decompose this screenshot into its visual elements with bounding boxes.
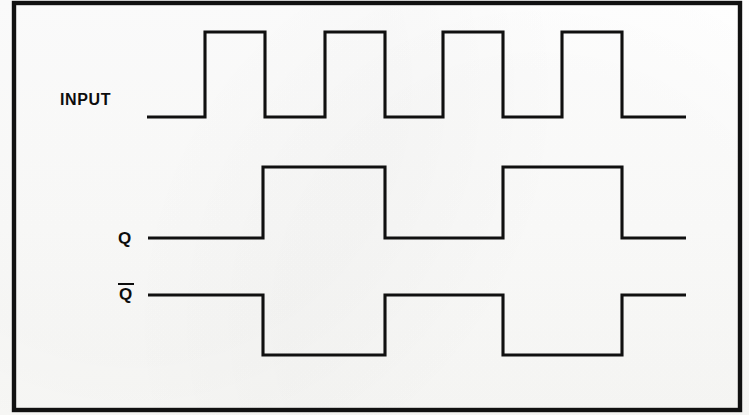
signal-label-input: INPUT: [60, 92, 111, 108]
signal-label-q: Q: [118, 230, 132, 247]
qbar-waveform: [148, 295, 686, 355]
qbar-overbar-text: Q: [119, 285, 133, 303]
signal-label-qbar: Q: [119, 285, 133, 303]
timing-diagram-canvas: [0, 0, 749, 415]
figure-border-rect: [14, 3, 740, 410]
input-waveform: [147, 32, 686, 117]
q-waveform: [148, 167, 686, 238]
timing-diagram-figure: INPUT Q Q: [0, 0, 749, 415]
